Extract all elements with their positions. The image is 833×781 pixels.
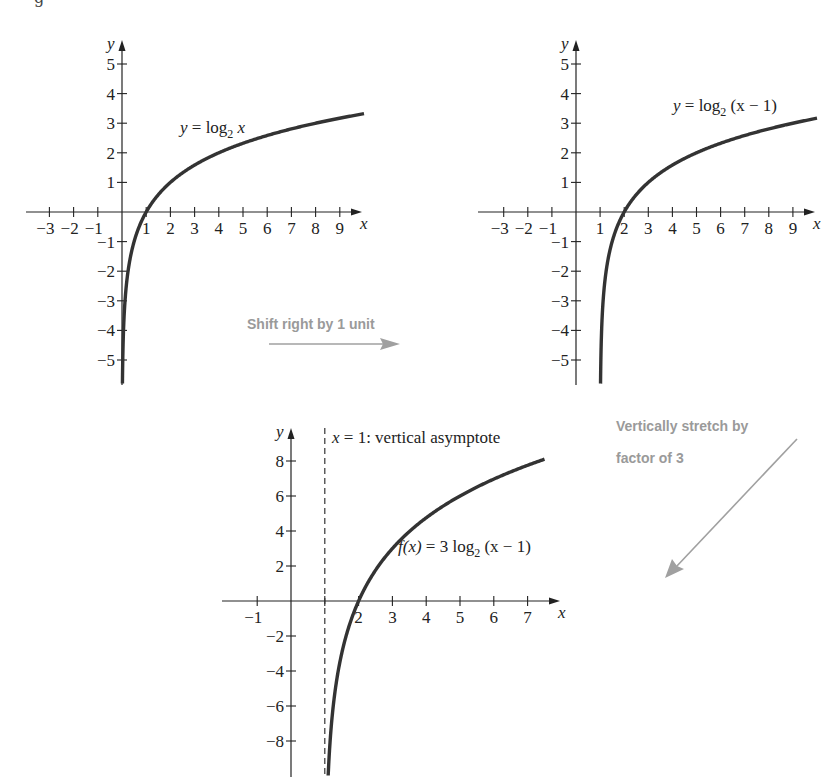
y-tick-label: 4 (107, 85, 116, 104)
x-tick-label: 7 (523, 608, 532, 627)
x-tick-label: −2 (515, 219, 533, 238)
y-tick-label: 3 (107, 114, 116, 133)
y-tick-label: −2 (97, 262, 115, 281)
x-tick-label: 5 (692, 219, 701, 238)
y-tick-label: −5 (551, 351, 569, 370)
x-tick-label: −1 (244, 608, 262, 627)
x-tick-label: 6 (263, 219, 272, 238)
y-tick-label: 8 (276, 452, 285, 471)
y-axis-arrow-icon (119, 40, 126, 51)
x-tick-label: 8 (311, 219, 320, 238)
x-axis-label: x (557, 603, 566, 622)
x-tick-label: 5 (239, 219, 248, 238)
y-tick-label: −1 (97, 233, 115, 252)
y-tick-label: 1 (561, 173, 570, 192)
y-tick-label: −3 (551, 292, 569, 311)
graph-log2-x-minus-1: −3−2−1123456789−5−4−3−2−112345xy (478, 34, 821, 385)
y-tick-label: −8 (266, 732, 284, 751)
y-tick-label: 2 (107, 144, 116, 163)
x-tick-label: 6 (716, 219, 725, 238)
x-tick-label: 6 (490, 608, 499, 627)
y-tick-label: −2 (551, 262, 569, 281)
y-tick-label: −5 (97, 351, 115, 370)
x-tick-label: 3 (644, 219, 653, 238)
y-tick-label: 4 (276, 522, 285, 541)
x-axis-label: x (812, 214, 821, 233)
y-axis-label: y (559, 34, 569, 53)
x-tick-label: 9 (336, 219, 345, 238)
graph3-asymptote-label: x = 1: vertical asymptote (331, 428, 500, 447)
y-tick-label: 1 (107, 173, 116, 192)
x-tick-label: −2 (61, 219, 79, 238)
y-tick-label: −6 (266, 697, 284, 716)
y-tick-label: 3 (561, 114, 570, 133)
y-tick-label: 2 (561, 144, 570, 163)
y-tick-label: −2 (266, 627, 284, 646)
x-tick-label: 9 (789, 219, 798, 238)
x-tick-label: 7 (740, 219, 749, 238)
y-axis-label: y (274, 422, 284, 441)
y-tick-label: 6 (276, 487, 285, 506)
x-tick-label: 2 (620, 219, 629, 238)
y-tick-label: −1 (551, 233, 569, 252)
x-tick-label: 1 (596, 219, 605, 238)
x-tick-label: 4 (422, 608, 431, 627)
y-axis-arrow-icon (573, 40, 580, 51)
x-tick-label: 1 (142, 219, 151, 238)
graph3-equation-label: f(x) = 3 log2 (x − 1) (398, 537, 531, 560)
diagonal-stretch-arrow-icon (665, 439, 797, 578)
vertical-stretch-note-line2: factor of 3 (616, 450, 684, 466)
y-axis-arrow-icon (288, 428, 295, 439)
function-curve (122, 114, 364, 384)
function-curve (601, 118, 817, 383)
x-tick-label: 4 (668, 219, 677, 238)
x-tick-label: 8 (765, 219, 774, 238)
x-tick-label: 3 (190, 219, 199, 238)
y-tick-label: 4 (561, 85, 570, 104)
x-axis-label: x (359, 214, 368, 233)
x-tick-label: 2 (166, 219, 175, 238)
clipped-caption-glyph: g (34, 0, 44, 7)
graph2-equation-label: y = log2 (x − 1) (671, 96, 777, 119)
x-tick-label: 3 (388, 608, 397, 627)
y-axis-label: y (105, 34, 115, 53)
y-tick-label: −3 (97, 292, 115, 311)
vertical-stretch-note-line1: Vertically stretch by (616, 418, 749, 434)
x-tick-label: −3 (36, 219, 54, 238)
x-tick-label: −3 (491, 219, 509, 238)
graph-log2-x: −3−2−1123456789−5−4−3−2−112345xy (26, 34, 368, 385)
shift-right-note: Shift right by 1 unit (247, 316, 375, 332)
y-tick-label: 5 (107, 55, 116, 74)
shift-right-arrow-icon (269, 338, 400, 350)
y-tick-label: −4 (266, 662, 285, 681)
y-tick-label: −4 (97, 321, 116, 340)
y-tick-label: 2 (276, 557, 285, 576)
figure-canvas: g −3−2−1123456789−5−4−3−2−112345xy y = l… (0, 0, 833, 781)
y-tick-label: 5 (561, 55, 570, 74)
x-tick-label: 5 (456, 608, 465, 627)
y-tick-label: −4 (551, 321, 570, 340)
x-tick-label: 7 (287, 219, 296, 238)
graph1-equation-label: y = log2 x (178, 118, 246, 141)
x-tick-label: 4 (215, 219, 224, 238)
graph-3-log2-x-minus-1: −1234567−8−6−4−22468xy (222, 422, 566, 777)
